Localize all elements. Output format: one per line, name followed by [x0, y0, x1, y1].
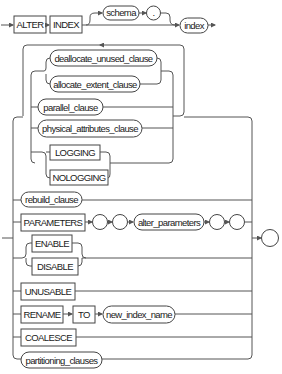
- parameters-label: PARAMETERS: [24, 217, 83, 228]
- physical-label: physical_attributes_clause: [42, 123, 138, 134]
- index-label: index: [184, 20, 205, 31]
- logging-label: LOGGING: [55, 147, 95, 158]
- open-paren-2: [113, 215, 128, 230]
- to-label: TO: [78, 309, 90, 320]
- partitioning-label: partitioning_clauses: [26, 355, 99, 366]
- syntax-diagram: ALTER INDEX schema . index deallocate_un…: [0, 0, 282, 374]
- enable-label: ENABLE: [35, 238, 69, 249]
- alter-parameters-label: alter_parameters: [138, 217, 201, 228]
- nologging-label: NOLOGGING: [52, 172, 105, 183]
- open-paren-1: [93, 215, 108, 230]
- close-paren-2: [230, 215, 245, 230]
- dot-label: .: [152, 7, 154, 18]
- top-row: ALTER INDEX schema . index: [1, 6, 215, 33]
- rename-label: RENAME: [23, 309, 60, 320]
- allocate-label: allocate_extent_clause: [53, 79, 137, 90]
- keyword-index: INDEX: [53, 19, 80, 30]
- keyword-alter: ALTER: [17, 19, 45, 30]
- parallel-label: parallel_clause: [43, 102, 98, 113]
- disable-label: DISABLE: [37, 261, 73, 272]
- coalesce-label: COALESCE: [25, 332, 72, 343]
- close-paren-1: [210, 215, 225, 230]
- schema-label: schema: [106, 7, 137, 18]
- unusable-label: UNUSABLE: [25, 286, 72, 297]
- terminator-circle: [262, 230, 279, 247]
- deallocate-label: deallocate_unused_clause: [54, 53, 152, 64]
- new-index-name-label: new_index_name: [106, 309, 172, 320]
- rebuild-label: rebuild_clause: [25, 194, 78, 205]
